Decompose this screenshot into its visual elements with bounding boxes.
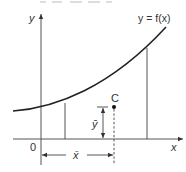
centroid-label: C (111, 92, 119, 104)
centroid-point (112, 105, 116, 109)
curve-f-of-x (13, 27, 166, 111)
centroid-diagram: y x 0 y = f(x) C ȳ x̄ (0, 0, 186, 172)
origin-label: 0 (30, 141, 36, 153)
x-bar-label: x̄ (72, 149, 79, 161)
y-axis-label: y (28, 12, 36, 24)
x-axis-label: x (170, 141, 177, 153)
curve-label: y = f(x) (138, 12, 170, 24)
y-bar-label: ȳ (91, 118, 99, 130)
